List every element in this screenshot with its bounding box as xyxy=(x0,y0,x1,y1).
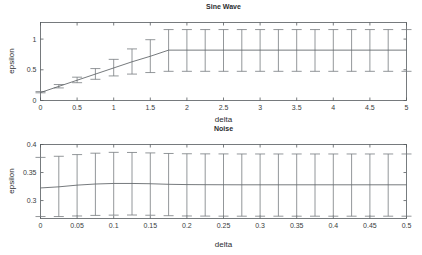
x-tick-label: 0.5 xyxy=(72,104,82,111)
error-bar xyxy=(36,157,46,216)
y-tick-label: 0.35 xyxy=(23,169,37,176)
x-tick-label: 0.1 xyxy=(109,222,119,229)
x-tick-label: 0.05 xyxy=(70,222,84,229)
x-tick-label: 2.5 xyxy=(219,104,229,111)
x-tick-label: 5 xyxy=(405,104,409,111)
y-tick-label: 0.3 xyxy=(27,197,37,204)
x-tick-label: 0.5 xyxy=(402,222,412,229)
y-tick-label: 0 xyxy=(33,97,37,104)
x-tick-label: 1 xyxy=(112,104,116,111)
x-tick-label: 0.25 xyxy=(217,222,231,229)
x-tick-label: 0.4 xyxy=(328,222,338,229)
x-axis-label: delta xyxy=(215,115,233,124)
chart-title: Noise xyxy=(214,125,233,132)
x-tick-label: 3 xyxy=(258,104,262,111)
x-tick-label: 0.35 xyxy=(290,222,304,229)
x-tick-label: 1.5 xyxy=(145,104,155,111)
x-tick-label: 2 xyxy=(185,104,189,111)
chart-sine-wave: 00.511.522.533.544.5500.51Sine Wavedelta… xyxy=(7,3,412,124)
x-tick-label: 0 xyxy=(39,104,43,111)
x-tick-label: 3.5 xyxy=(292,104,302,111)
x-axis-label: delta xyxy=(215,240,233,249)
chart-noise: 00.050.10.150.20.250.30.350.40.450.50.30… xyxy=(7,125,412,249)
figure-canvas: 00.511.522.533.544.5500.51Sine Wavedelta… xyxy=(0,0,422,255)
x-tick-label: 0 xyxy=(39,222,43,229)
y-tick-label: 1 xyxy=(33,36,37,43)
y-tick-label: 0.5 xyxy=(27,66,37,73)
x-tick-label: 4.5 xyxy=(365,104,375,111)
chart-title: Sine Wave xyxy=(206,3,241,10)
y-axis-label: epsilon xyxy=(7,168,16,193)
x-tick-label: 0.3 xyxy=(255,222,265,229)
x-tick-label: 0.2 xyxy=(182,222,192,229)
y-tick-label: 0.4 xyxy=(27,141,37,148)
plot-svg: 00.511.522.533.544.5500.51Sine Wavedelta… xyxy=(0,0,422,255)
x-tick-label: 0.15 xyxy=(143,222,157,229)
x-tick-label: 4 xyxy=(331,104,335,111)
x-tick-label: 0.45 xyxy=(363,222,377,229)
y-axis-label: epsilon xyxy=(7,48,16,73)
